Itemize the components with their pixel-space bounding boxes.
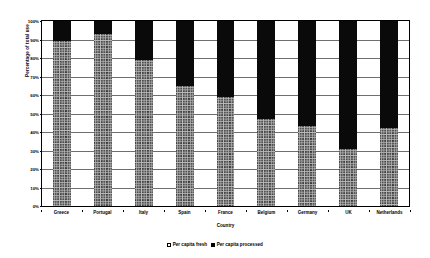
bar-segment-fresh[interactable] [298, 126, 316, 206]
x-axis-tick-label: Italy [123, 210, 164, 215]
bar-slot [287, 21, 328, 206]
bar-group [42, 21, 409, 206]
bar-segment-fresh[interactable] [53, 41, 71, 206]
bar-segment-processed[interactable] [257, 21, 275, 119]
y-axis-tick-label: 80% [13, 56, 39, 61]
bar-slot [164, 21, 205, 206]
x-axis-tick-mark [41, 210, 42, 212]
y-axis-tick-mark [40, 206, 43, 207]
legend-item[interactable]: Per capita fresh [167, 242, 207, 247]
bar-segment-fresh[interactable] [94, 34, 112, 206]
bar-segment-fresh[interactable] [135, 60, 153, 206]
bar-segment-fresh[interactable] [217, 97, 235, 206]
bar-segment-processed[interactable] [298, 21, 316, 126]
x-axis-tick-mark [328, 210, 329, 212]
x-axis-tick-mark [410, 210, 411, 212]
y-axis-tick-label: 10% [13, 185, 39, 190]
legend-item[interactable]: Per capita processed [211, 242, 263, 247]
stacked-bar[interactable] [176, 21, 194, 206]
x-axis-tick-mark [164, 210, 165, 212]
bar-segment-processed[interactable] [176, 21, 194, 86]
x-axis-tick-label: Belgium [246, 210, 287, 215]
chart-legend: Per capita freshPer capita processed [0, 242, 430, 247]
stacked-bar[interactable] [380, 21, 398, 206]
bar-slot [327, 21, 368, 206]
bar-slot [246, 21, 287, 206]
bar-segment-processed[interactable] [217, 21, 235, 97]
legend-label: Per capita fresh [173, 242, 207, 247]
y-axis-tick-label: 70% [13, 74, 39, 79]
plot-area: 100%90%80%70%60%50%40%30%20%10%0% [41, 20, 410, 207]
stacked-bar-chart: Percentage of total use 100%90%80%70%60%… [0, 0, 430, 258]
stacked-bar[interactable] [135, 21, 153, 206]
y-axis-tick-label: 0% [13, 204, 39, 209]
x-axis-tick-label: Netherlands [369, 210, 410, 215]
bar-slot [368, 21, 409, 206]
y-axis-tick-label: 40% [13, 130, 39, 135]
x-axis-tick-label: France [205, 210, 246, 215]
x-axis-tick-mark [123, 210, 124, 212]
legend-swatch-processed [211, 243, 215, 247]
y-axis-tick-label: 30% [13, 148, 39, 153]
bar-segment-processed[interactable] [53, 21, 71, 41]
x-axis-tick-mark [369, 210, 370, 212]
x-axis-title: Country [41, 223, 410, 228]
y-axis-tick-label: 100% [13, 19, 39, 24]
x-axis-tick-mark [287, 210, 288, 212]
bar-slot [83, 21, 124, 206]
bar-segment-fresh[interactable] [176, 86, 194, 206]
x-axis-tick-mark [246, 210, 247, 212]
stacked-bar[interactable] [298, 21, 316, 206]
x-axis-tick-label: Spain [164, 210, 205, 215]
y-axis-tick-label: 90% [13, 37, 39, 42]
stacked-bar[interactable] [217, 21, 235, 206]
stacked-bar[interactable] [53, 21, 71, 206]
x-axis-labels: GreecePortugalItalySpainFranceBelgiumGer… [41, 210, 410, 215]
bar-segment-processed[interactable] [94, 21, 112, 34]
bar-segment-fresh[interactable] [257, 119, 275, 206]
y-axis-tick-label: 60% [13, 93, 39, 98]
x-axis-tick-label: Greece [41, 210, 82, 215]
y-axis-tick-label: 50% [13, 111, 39, 116]
bar-slot [205, 21, 246, 206]
stacked-bar[interactable] [94, 21, 112, 206]
bar-segment-fresh[interactable] [380, 128, 398, 206]
bar-slot [42, 21, 83, 206]
legend-swatch-fresh [167, 243, 171, 247]
legend-label: Per capita processed [217, 242, 263, 247]
x-axis-tick-mark [205, 210, 206, 212]
bar-slot [124, 21, 165, 206]
y-axis-tick-label: 20% [13, 167, 39, 172]
x-axis-tick-label: Portugal [82, 210, 123, 215]
bar-segment-processed[interactable] [380, 21, 398, 128]
x-axis-tick-label: UK [328, 210, 369, 215]
bar-segment-processed[interactable] [339, 21, 357, 149]
stacked-bar[interactable] [257, 21, 275, 206]
stacked-bar[interactable] [339, 21, 357, 206]
bar-segment-processed[interactable] [135, 21, 153, 60]
x-axis-tick-label: Germany [287, 210, 328, 215]
x-axis-tick-mark [82, 210, 83, 212]
bar-segment-fresh[interactable] [339, 149, 357, 206]
